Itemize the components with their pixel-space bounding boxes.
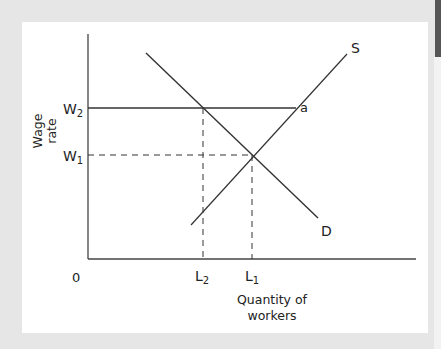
- l1-label: L1: [245, 268, 259, 286]
- point-a-label: a: [300, 100, 308, 115]
- demand-curve: [146, 53, 318, 218]
- demand-label: D: [321, 223, 332, 239]
- x-axis-label-line1: Quantity of: [237, 292, 308, 307]
- supply-label: S: [351, 40, 360, 56]
- y-axis-label-line2: rate: [44, 118, 59, 144]
- y-axis-label-line1: Wage: [30, 113, 45, 148]
- supply-curve: [191, 54, 347, 225]
- origin-label: 0: [72, 270, 80, 285]
- x-axis-label-line2: workers: [247, 308, 296, 323]
- w1-label: W1: [63, 148, 83, 166]
- l2-label: L2: [195, 268, 209, 286]
- w2-label: W2: [63, 101, 83, 119]
- labor-market-diagram: S D a W2 W1 0 L2 L1 Quantity of workers …: [0, 0, 441, 349]
